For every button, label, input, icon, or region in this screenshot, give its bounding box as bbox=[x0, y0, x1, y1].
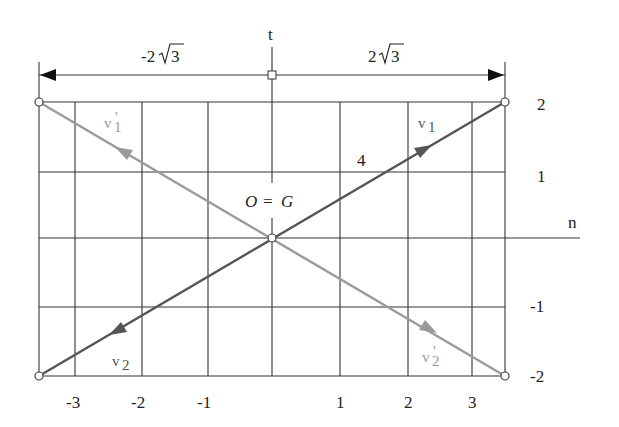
x-tick: -3 bbox=[66, 393, 80, 412]
n-axis-label: n bbox=[568, 213, 577, 232]
y-tick-labels: 2 1 -1 -2 bbox=[530, 95, 546, 386]
endpoint-bottom-right bbox=[501, 372, 509, 380]
v1-arrow-icon bbox=[414, 145, 432, 158]
svg-text:1: 1 bbox=[428, 119, 436, 135]
x-tick: 3 bbox=[468, 393, 477, 412]
v1-prime-arrow-icon bbox=[115, 147, 133, 160]
v2-prime-arrow-icon bbox=[419, 320, 437, 333]
stress-vector-diagram: t n -2 3 2 3 O = G 4 v 1 v 1 ' bbox=[0, 0, 619, 427]
x-tick: 1 bbox=[336, 393, 345, 412]
svg-text:v: v bbox=[104, 115, 112, 131]
svg-text:3: 3 bbox=[391, 47, 400, 66]
x-tick: 2 bbox=[404, 393, 413, 412]
labels: t n -2 3 2 3 O = G 4 v 1 v 1 ' bbox=[66, 25, 577, 412]
svg-text:v: v bbox=[112, 353, 120, 369]
v2-arrow-icon bbox=[109, 322, 127, 335]
endpoint-top-left bbox=[35, 98, 43, 106]
dimension-label-right: 2 3 bbox=[368, 44, 404, 66]
svg-text:G: G bbox=[281, 192, 293, 211]
v1-prime-label: v 1 ' bbox=[104, 109, 122, 135]
svg-text:3: 3 bbox=[171, 47, 180, 66]
svg-text:v: v bbox=[422, 349, 430, 365]
v2-label: v 2 bbox=[112, 353, 130, 373]
svg-text:O: O bbox=[245, 192, 257, 211]
x-tick-labels: -3 -2 -1 1 2 3 bbox=[66, 393, 477, 412]
svg-text:2: 2 bbox=[122, 357, 130, 373]
y-tick: 1 bbox=[537, 167, 546, 186]
x-tick: -1 bbox=[197, 393, 211, 412]
svg-text:': ' bbox=[115, 109, 118, 125]
svg-text:-2: -2 bbox=[141, 47, 155, 66]
segment-length-label: 4 bbox=[357, 151, 366, 170]
t-axis-label: t bbox=[268, 25, 273, 44]
y-tick: -1 bbox=[530, 297, 544, 316]
dimension-arrow-left-icon bbox=[40, 69, 56, 81]
x-tick: -2 bbox=[131, 393, 145, 412]
origin-point bbox=[268, 234, 276, 242]
dimension-line bbox=[39, 69, 505, 81]
svg-text:': ' bbox=[433, 343, 436, 359]
v2-prime-label: v 2 ' bbox=[422, 343, 440, 369]
endpoint-top-right bbox=[501, 98, 509, 106]
svg-text:=: = bbox=[263, 192, 273, 211]
dimension-label-left: -2 3 bbox=[141, 44, 184, 66]
v1-label: v 1 bbox=[418, 115, 436, 135]
dimension-center-marker bbox=[268, 71, 276, 79]
y-tick: -2 bbox=[530, 367, 544, 386]
svg-text:v: v bbox=[418, 115, 426, 131]
origin-label: O = G bbox=[245, 192, 293, 211]
dimension-arrow-right-icon bbox=[488, 69, 504, 81]
endpoint-bottom-left bbox=[35, 372, 43, 380]
svg-text:2: 2 bbox=[368, 47, 377, 66]
y-tick: 2 bbox=[537, 95, 546, 114]
